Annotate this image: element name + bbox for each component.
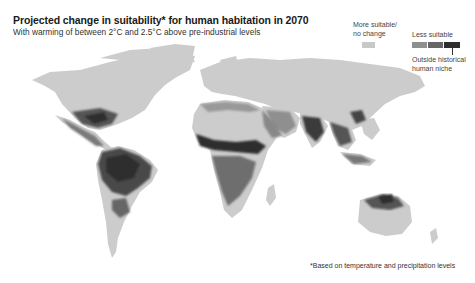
map-subtitle: With warming of between 2°C and 2.5°C ab… <box>13 27 260 37</box>
world-map <box>0 40 475 265</box>
asia-less-suitable <box>266 110 372 164</box>
footnote: *Based on temperature and precipitation … <box>310 262 455 269</box>
legend-less-suitable-label: Less suitable <box>412 31 453 38</box>
map-title: Projected change in suitability* for hum… <box>13 14 309 26</box>
legend-more-suitable-label: More suitable/ no change <box>353 20 413 38</box>
north-america <box>32 44 195 150</box>
new-zealand <box>430 228 438 244</box>
